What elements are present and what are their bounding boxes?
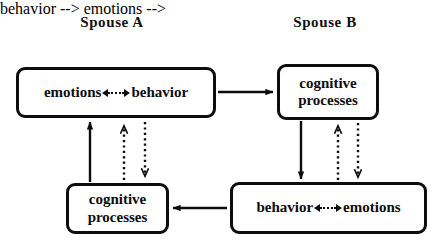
arrowhead-right-icon [124, 89, 130, 97]
node-label: behavior emotions [256, 199, 400, 216]
diagram-canvas: Spouse A Spouse B behavior --> [0, 0, 442, 250]
term-emotions: emotions [44, 84, 102, 101]
dotted-bidirectional-arrow-icon [314, 202, 342, 215]
node-label: cognitive processes [298, 75, 358, 110]
arrowhead-right-icon [336, 204, 342, 212]
term-cognitive: cognitive [299, 75, 357, 92]
node-label: emotions behavior [44, 84, 188, 101]
arrow-shaft [108, 92, 124, 94]
dotted-bidirectional-arrow-icon [102, 86, 130, 99]
node-spouse-a-emotions-behavior[interactable]: emotions behavior [16, 67, 216, 118]
term-processes: processes [88, 209, 148, 226]
term-processes: processes [298, 92, 358, 109]
term-behavior: behavior [131, 84, 188, 101]
node-spouse-b-cognitive-processes[interactable]: cognitive processes [277, 64, 379, 120]
arrow-shaft [320, 207, 336, 209]
term-emotions: emotions [343, 199, 401, 216]
term-cognitive: cognitive [89, 191, 147, 208]
node-spouse-a-cognitive-processes[interactable]: cognitive processes [66, 183, 169, 234]
node-label: cognitive processes [88, 191, 148, 226]
term-behavior: behavior [256, 199, 313, 216]
node-spouse-b-behavior-emotions[interactable]: behavior emotions [230, 182, 427, 234]
